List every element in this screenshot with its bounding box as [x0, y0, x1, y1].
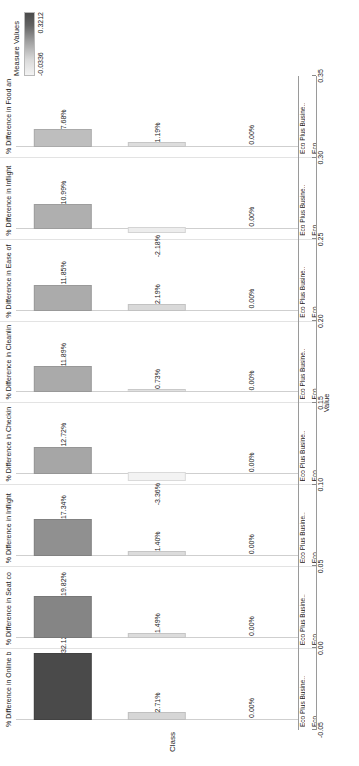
bar-value-label: 2.19%: [154, 284, 161, 304]
bar-row[interactable]: 32.12%: [16, 649, 110, 730]
bar[interactable]: [34, 366, 92, 392]
bar-row[interactable]: 0.00%: [204, 649, 298, 730]
bar-row[interactable]: 0.00%: [204, 76, 298, 157]
subcategory-group: Eco Plus Busine..Eco: [299, 76, 317, 157]
facet-header: % Difference in Inflight: [0, 157, 16, 239]
bar-row[interactable]: 0.00%: [204, 567, 298, 648]
category-axis-title: Class: [168, 732, 177, 752]
bar-row[interactable]: 0.00%: [204, 322, 298, 403]
bar-value-label: 2.71%: [154, 693, 161, 713]
value-tick-mark: [312, 647, 316, 648]
facet-header: % Difference in Checkin: [0, 403, 16, 485]
bar-value-label: -3.36%: [154, 483, 161, 505]
bar[interactable]: [128, 472, 186, 481]
bar-value-label: 0.00%: [248, 125, 255, 145]
facet-header-label: % Difference in Checkin: [5, 407, 12, 482]
bar-value-label: 0.73%: [154, 369, 161, 389]
bar[interactable]: [34, 129, 92, 147]
bar-row[interactable]: 2.71%: [110, 649, 204, 730]
value-tick-label: 0.15: [317, 396, 324, 410]
bar-row[interactable]: -3.36%: [110, 404, 204, 485]
facet-header: % Difference in Food an: [0, 76, 16, 157]
value-tick-label: 0.05: [317, 560, 324, 574]
bar-value-label: 0.00%: [248, 698, 255, 718]
value-tick-mark: [312, 320, 316, 321]
bar-row[interactable]: 0.00%: [204, 404, 298, 485]
bar-row[interactable]: 0.00%: [204, 240, 298, 321]
value-tick-label: 0.00: [317, 641, 324, 655]
facet-header-label: % Difference in Inflight: [5, 493, 12, 563]
panel-rows: 32.12%2.71%0.00%: [16, 649, 298, 730]
bar[interactable]: [128, 712, 186, 719]
plot-panel: 7.68%1.19%0.00%: [16, 76, 298, 157]
bar-row[interactable]: -2.18%: [110, 158, 204, 239]
bar-row[interactable]: 0.73%: [110, 322, 204, 403]
bar-row[interactable]: 1.19%: [110, 76, 204, 157]
bar-row[interactable]: 11.89%: [16, 322, 110, 403]
bar-row[interactable]: 10.99%: [16, 158, 110, 239]
bar[interactable]: [34, 447, 92, 475]
panel-rows: 11.89%0.73%0.00%: [16, 322, 298, 403]
legend-ticks: -0.0336 0.3212: [37, 12, 44, 76]
subcategory-group: Eco Plus Busine..Eco: [299, 321, 317, 403]
bar-value-label: 1.49%: [154, 613, 161, 633]
value-tick-label: 0.25: [317, 233, 324, 247]
bar[interactable]: [128, 142, 186, 146]
bar-value-label: 10.99%: [60, 181, 67, 205]
bar-value-label: 0.00%: [248, 289, 255, 309]
bar[interactable]: [34, 596, 92, 638]
panel-rows: 12.72%-3.36%0.00%: [16, 404, 298, 485]
value-tick-mark: [312, 729, 316, 730]
bar-row[interactable]: 17.34%: [16, 485, 110, 566]
facet-header-label: % Difference in Inflight: [5, 166, 12, 236]
facet-header-label: % Difference in Cleanlin: [5, 325, 12, 400]
bar[interactable]: [34, 285, 92, 311]
facet-header: % Difference in Seat co: [0, 566, 16, 648]
plot-panels: 32.12%2.71%0.00%19.82%1.49%0.00%17.34%1.…: [16, 76, 299, 730]
bar[interactable]: [128, 551, 186, 556]
bar[interactable]: [34, 519, 92, 556]
value-tick-label: 0.20: [317, 314, 324, 328]
plot-panel: 19.82%1.49%0.00%: [16, 566, 298, 648]
bar[interactable]: [128, 633, 186, 638]
value-axis: Value 0.350.300.250.200.150.100.050.00-0…: [317, 76, 337, 730]
legend-min-label: -0.0336: [37, 52, 44, 76]
bar-value-label: 1.19%: [154, 123, 161, 143]
subcategory-group: Eco Plus Busine..Eco: [299, 484, 317, 566]
legend: Measure Values -0.0336 0.3212: [12, 6, 44, 76]
value-tick-mark: [312, 157, 316, 158]
bar-value-label: 1.40%: [154, 531, 161, 551]
bar-row[interactable]: 11.85%: [16, 240, 110, 321]
rotated-chart-wrapper: Measure Values -0.0336 0.3212 Class % Di…: [0, 0, 359, 766]
legend-gradient-bar: [24, 12, 35, 76]
facet-header: % Difference in Ease of: [0, 239, 16, 321]
value-tick-mark: [312, 402, 316, 403]
bar[interactable]: [128, 227, 186, 233]
bar-value-label: 11.85%: [60, 261, 67, 284]
facet-header-label: % Difference in Ease of: [5, 245, 12, 318]
bar[interactable]: [128, 389, 186, 392]
facet-header-strip: % Difference in Online b% Difference in …: [0, 76, 16, 730]
bar[interactable]: [128, 304, 186, 310]
plot-panel: 11.89%0.73%0.00%: [16, 321, 298, 403]
subcategory-group: Eco Plus Busine..Eco: [299, 648, 317, 730]
panel-rows: 19.82%1.49%0.00%: [16, 567, 298, 648]
bar-row[interactable]: 7.68%: [16, 76, 110, 157]
bar-value-label: 11.89%: [60, 343, 67, 366]
plot-panel: 10.99%-2.18%0.00%: [16, 157, 298, 239]
plot-panel: 32.12%2.71%0.00%: [16, 648, 298, 730]
bar-value-label: 17.34%: [60, 495, 67, 519]
bar-row[interactable]: 19.82%: [16, 567, 110, 648]
bar-row[interactable]: 0.00%: [204, 485, 298, 566]
subcategory-group: Eco Plus Busine..Eco: [299, 403, 317, 485]
bar-row[interactable]: 12.72%: [16, 404, 110, 485]
chart-canvas: Measure Values -0.0336 0.3212 Class % Di…: [0, 0, 359, 766]
bar-value-label: -2.18%: [154, 235, 161, 257]
bar-row[interactable]: 1.49%: [110, 567, 204, 648]
bar[interactable]: [34, 653, 92, 720]
legend-title: Measure Values: [12, 6, 21, 76]
bar[interactable]: [34, 204, 92, 228]
bar-row[interactable]: 0.00%: [204, 158, 298, 239]
value-tick-mark: [312, 239, 316, 240]
bar-value-label: 0.00%: [248, 207, 255, 227]
